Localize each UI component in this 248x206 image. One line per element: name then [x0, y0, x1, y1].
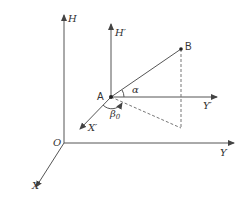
x-axis: [36, 143, 64, 187]
alpha-arc: [122, 90, 124, 97]
label-y: Y: [220, 147, 228, 158]
label-a: A: [97, 91, 104, 102]
point-b: [179, 47, 183, 51]
projection-lines: [111, 49, 181, 128]
label-b: B: [185, 41, 192, 52]
coordinate-diagram: H H′ B A α Y′ β0 X′ O Y X: [0, 0, 248, 206]
label-x: X: [31, 180, 40, 191]
label-origin: O: [53, 137, 61, 148]
label-alpha: α: [132, 84, 139, 95]
label-x-prime: X′: [87, 122, 98, 133]
label-h-prime: H′: [114, 27, 127, 38]
label-h: H: [67, 13, 77, 24]
point-a: [109, 95, 113, 99]
label-y-prime: Y′: [203, 100, 213, 111]
a-horizontal-projection: [111, 97, 181, 128]
segment-ab: [111, 49, 181, 97]
label-beta0: β0: [109, 108, 121, 121]
